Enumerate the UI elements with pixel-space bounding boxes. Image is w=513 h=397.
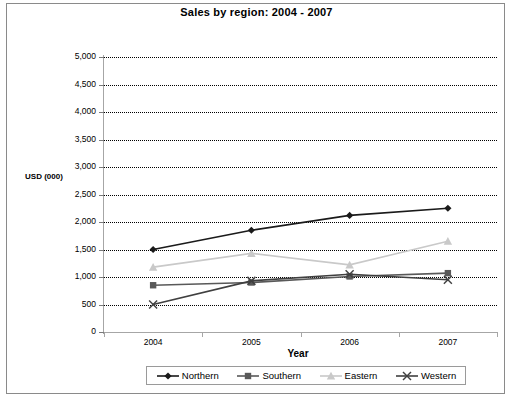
- x-axis-tick: [104, 332, 105, 337]
- legend-label: Southern: [262, 370, 301, 381]
- x-axis-tick-label: 2004: [123, 337, 183, 347]
- chart-legend: NorthernSouthernEasternWestern: [146, 366, 466, 385]
- legend-marker-triangle-icon: [319, 370, 343, 382]
- chart-title: Sales by region: 2004 - 2007: [0, 6, 513, 18]
- series-northern: [150, 205, 452, 253]
- x-axis-tick: [202, 332, 203, 337]
- y-axis-tick-label: 0: [40, 326, 96, 336]
- data-point-triangle: [444, 237, 452, 245]
- y-axis-tick-label: 3,000: [40, 161, 96, 171]
- x-axis-tick: [301, 332, 302, 337]
- y-axis-tick-label: 5,000: [40, 51, 96, 61]
- data-point-diamond: [444, 205, 451, 212]
- legend-label: Eastern: [345, 370, 378, 381]
- y-axis-tick-label: 4,500: [40, 79, 96, 89]
- legend-marker-square-icon: [236, 370, 260, 382]
- x-axis-tick: [399, 332, 400, 337]
- data-point-square: [245, 372, 251, 378]
- y-axis-title: USD (000): [8, 172, 80, 181]
- series-plot: [104, 57, 497, 332]
- chart-canvas: Sales by region: 2004 - 2007 USD (000) 5…: [0, 0, 513, 397]
- data-point-square: [445, 270, 451, 276]
- data-point-diamond: [164, 372, 171, 379]
- y-axis-tick-label: 500: [40, 299, 96, 309]
- data-point-diamond: [248, 227, 255, 234]
- legend-marker-diamond-icon: [156, 370, 180, 382]
- y-axis-tick-label: 2,000: [40, 216, 96, 226]
- x-axis-title: Year: [96, 348, 500, 359]
- legend-item-western[interactable]: Western: [395, 370, 456, 382]
- data-point-square: [150, 282, 156, 288]
- series-southern: [150, 270, 451, 289]
- y-axis-tick-label: 3,500: [40, 134, 96, 144]
- y-axis-tick-label: 4,000: [40, 106, 96, 116]
- x-axis-tick-label: 2007: [418, 337, 478, 347]
- legend-label: Western: [421, 370, 456, 381]
- x-axis-tick-label: 2005: [221, 337, 281, 347]
- data-point-diamond: [150, 246, 157, 253]
- series-western: [149, 270, 452, 308]
- legend-item-eastern[interactable]: Eastern: [319, 370, 378, 382]
- data-point-diamond: [346, 212, 353, 219]
- x-axis-tick-label: 2006: [320, 337, 380, 347]
- legend-label: Northern: [182, 370, 219, 381]
- y-axis-tick-label: 1,000: [40, 271, 96, 281]
- y-axis-tick-label: 1,500: [40, 244, 96, 254]
- x-axis-tick: [497, 332, 498, 337]
- legend-marker-x-icon: [395, 370, 419, 382]
- legend-item-southern[interactable]: Southern: [236, 370, 301, 382]
- legend-item-northern[interactable]: Northern: [156, 370, 219, 382]
- y-axis-tick-label: 2,500: [40, 189, 96, 199]
